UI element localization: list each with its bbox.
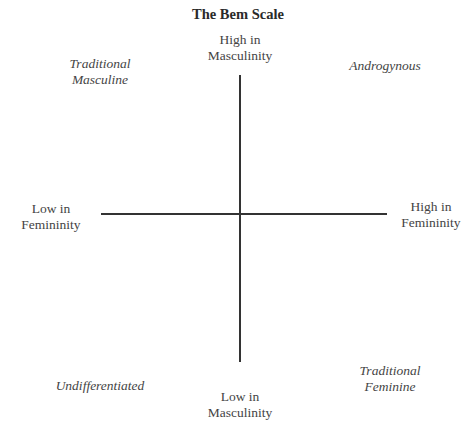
axis-label-line: Masculinity (190, 48, 290, 64)
axis-label-line: High in (390, 199, 472, 215)
femininity-axis-line (101, 213, 387, 215)
quadrant-traditional-masculine: Traditional Masculine (50, 56, 150, 88)
quadrant-label-line: Traditional (340, 363, 440, 379)
quadrant-label-line: Undifferentiated (40, 378, 160, 394)
axis-label-line: Femininity (390, 215, 472, 231)
axis-label-high-femininity: High in Femininity (390, 199, 472, 231)
axis-label-low-masculinity: Low in Masculinity (190, 389, 290, 421)
axis-label-line: Femininity (10, 217, 92, 233)
quadrant-label-line: Androgynous (330, 58, 440, 74)
quadrant-traditional-feminine: Traditional Feminine (340, 363, 440, 395)
axis-label-line: Masculinity (190, 405, 290, 421)
axis-label-high-masculinity: High in Masculinity (190, 32, 290, 64)
quadrant-undifferentiated: Undifferentiated (40, 378, 160, 394)
axis-label-line: High in (190, 32, 290, 48)
quadrant-label-line: Feminine (340, 379, 440, 395)
quadrant-androgynous: Androgynous (330, 58, 440, 74)
quadrant-label-line: Masculine (50, 72, 150, 88)
axis-label-low-femininity: Low in Femininity (10, 201, 92, 233)
diagram-title: The Bem Scale (0, 6, 476, 23)
quadrant-label-line: Traditional (50, 56, 150, 72)
axis-label-line: Low in (190, 389, 290, 405)
axis-label-line: Low in (10, 201, 92, 217)
masculinity-axis-line (239, 75, 241, 362)
